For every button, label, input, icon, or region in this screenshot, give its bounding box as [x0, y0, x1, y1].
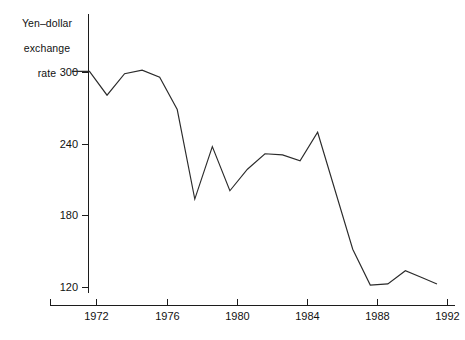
x-tick-label-1984: 1984	[295, 310, 319, 322]
x-tick-label-1976: 1976	[155, 310, 179, 322]
x-tick-label-1988: 1988	[365, 310, 389, 322]
y-tick-label-120: 120	[60, 281, 78, 293]
chart-canvas: 300 240 180 120 1972 1976 1980 1984 1988…	[0, 0, 465, 340]
y-tick-label-180: 180	[60, 209, 78, 221]
x-tick-label-1972: 1972	[84, 310, 108, 322]
x-tick-marks	[51, 299, 448, 306]
y-tick-label-240: 240	[60, 138, 78, 150]
exchange-rate-line	[72, 70, 437, 285]
x-axis-group: 1972 1976 1980 1984 1988 1992	[51, 299, 460, 322]
y-tick-marks	[82, 73, 89, 288]
x-tick-label-1980: 1980	[225, 310, 249, 322]
y-axis-group: 300 240 180 120	[60, 14, 89, 293]
yen-dollar-exchange-rate-chart: Yen–dollar exchange rate 300 240 180 120	[0, 0, 465, 340]
x-tick-label-1992: 1992	[435, 310, 459, 322]
y-tick-label-300: 300	[60, 66, 78, 78]
